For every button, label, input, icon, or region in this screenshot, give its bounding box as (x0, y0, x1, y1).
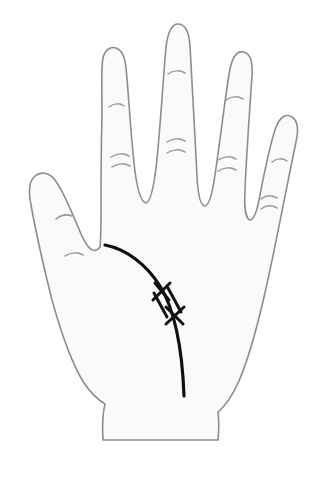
hand-diagram-svg (0, 0, 316, 487)
hand-figure-container: Hand palm line drawing with surgical inc… (0, 0, 316, 487)
